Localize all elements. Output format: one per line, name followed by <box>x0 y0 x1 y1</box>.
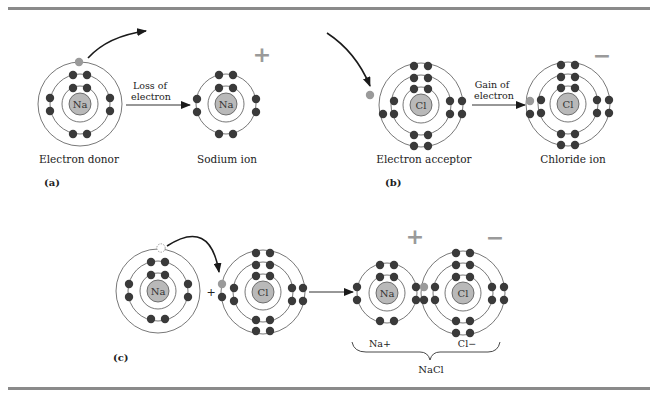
label-na-plus: Na+ <box>369 338 391 349</box>
atom-chloride-ion: Cl <box>526 61 613 149</box>
loss-label-line1: Loss of <box>133 80 169 91</box>
caption-sodium-ion: Sodium ion <box>197 153 257 165</box>
nucleus-symbol: Na <box>380 288 395 299</box>
electron-leaving-arrow <box>88 31 146 58</box>
vacated-electron-position <box>157 244 165 252</box>
bottom-rule <box>8 387 650 390</box>
positive-charge-sign: + <box>253 42 271 67</box>
atom-cl-acceptor: Cl <box>379 62 466 150</box>
incoming-electron <box>366 91 374 99</box>
valence-electron <box>75 58 83 66</box>
loss-label-line2: electron <box>131 91 171 102</box>
nucleus-symbol: Na <box>219 99 234 110</box>
label-nacl: NaCl <box>418 364 444 375</box>
transferred-electron <box>218 280 226 288</box>
negative-charge-sign: − <box>593 43 611 68</box>
atom-cl-reactant: Cl <box>218 249 307 335</box>
plus-sign: + <box>206 286 215 299</box>
nucleus-symbol: Cl <box>563 99 574 110</box>
shared-electron <box>420 283 428 291</box>
atom-na-reactant: Na <box>116 244 200 333</box>
atom-sodium-ion: Na <box>193 71 260 138</box>
caption-electron-acceptor: Electron acceptor <box>376 153 472 165</box>
gained-electron <box>526 97 534 105</box>
nucleus-symbol: Na <box>151 286 166 297</box>
caption-chloride-ion: Chloride ion <box>540 153 606 165</box>
electron-transfer-arrow <box>167 236 219 272</box>
top-rule <box>8 7 650 10</box>
product-na-ion: Na <box>353 261 420 325</box>
nucleus-symbol: Na <box>73 99 88 110</box>
ionic-bonding-figure: Na Loss of electron Na + Electron donor … <box>0 0 658 399</box>
label-cl-minus: Cl− <box>458 338 476 349</box>
atom-na-donor: Na <box>38 58 122 146</box>
caption-electron-donor: Electron donor <box>39 153 120 165</box>
electron-arriving-arrow <box>327 33 370 86</box>
gain-label-line2: electron <box>474 90 514 101</box>
figure-canvas: Na Loss of electron Na + Electron donor … <box>0 0 658 399</box>
nucleus-symbol: Cl <box>258 287 269 298</box>
panel-label-a: (a) <box>44 177 60 188</box>
cl-charge-sign: − <box>486 225 504 250</box>
panel-label-c: (c) <box>113 352 129 363</box>
product-cl-ion: Cl <box>420 249 508 337</box>
nucleus-symbol: Cl <box>458 288 469 299</box>
nucleus-symbol: Cl <box>416 100 427 111</box>
na-charge-sign: + <box>406 224 424 249</box>
panel-label-b: (b) <box>385 177 401 188</box>
gain-label-line1: Gain of <box>475 79 511 90</box>
